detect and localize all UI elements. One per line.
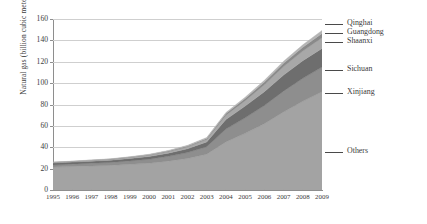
x-axis-tick-label: 2004	[216, 194, 236, 201]
y-axis-tick-mark	[50, 147, 53, 148]
callout-leader-line	[325, 152, 343, 153]
x-axis-tick-label: 2000	[139, 194, 159, 201]
callout-label-qinghai: Qinghai	[347, 19, 372, 27]
callout-label-guangdong: Guangdong	[347, 28, 384, 36]
callout-leader-line	[325, 24, 343, 25]
callout-leader-line	[325, 70, 343, 71]
y-axis-tick-label: 80	[28, 101, 48, 109]
x-axis-tick-label: 1998	[101, 194, 121, 201]
x-axis-tick-label: 2006	[254, 194, 274, 201]
x-axis-tick-label: 2008	[293, 194, 313, 201]
y-axis-tick-label: 120	[28, 58, 48, 66]
y-axis-tick-label: 0	[28, 186, 48, 194]
y-axis-tick-mark	[50, 105, 53, 106]
y-axis-tick-label: 140	[28, 36, 48, 44]
callout-leader-line	[325, 33, 343, 34]
x-axis-tick-label: 2007	[274, 194, 294, 201]
y-axis-tick-label: 160	[28, 15, 48, 23]
y-axis-title: Natural gas (billion cubic meters)	[19, 0, 28, 128]
y-axis-tick-label: 100	[28, 79, 48, 87]
y-axis-tick-label: 60	[28, 122, 48, 130]
x-axis-line	[53, 190, 323, 191]
callout-label-xinjiang: Xinjiang	[347, 88, 375, 96]
stacked-area-series-group	[53, 19, 322, 190]
y-axis-tick-mark	[50, 190, 53, 191]
callout-leader-line	[325, 93, 343, 94]
y-axis-tick-mark	[50, 83, 53, 84]
natural-gas-stacked-area-chart: Natural gas (billion cubic meters) 02040…	[0, 0, 427, 224]
x-axis-tick-label: 1996	[62, 194, 82, 201]
callout-label-others: Others	[347, 147, 368, 155]
callout-label-sichuan: Sichuan	[347, 65, 372, 73]
x-axis-tick-label: 2005	[235, 194, 255, 201]
x-axis-tick-label: 2009	[312, 194, 332, 201]
x-axis-tick-label: 2001	[158, 194, 178, 201]
callout-label-shaanxi: Shaanxi	[347, 37, 372, 45]
x-axis-tick-label: 2003	[197, 194, 217, 201]
y-axis-tick-label: 40	[28, 143, 48, 151]
y-axis-tick-mark	[50, 19, 53, 20]
x-axis-tick-label: 1999	[120, 194, 140, 201]
plot-area	[53, 19, 322, 190]
x-axis-tick-label: 2002	[178, 194, 198, 201]
y-axis-tick-mark	[50, 126, 53, 127]
y-axis-tick-label: 20	[28, 165, 48, 173]
x-axis-tick-label: 1997	[81, 194, 101, 201]
y-axis-tick-mark	[50, 40, 53, 41]
callout-leader-line	[325, 42, 343, 43]
y-axis-tick-mark	[50, 169, 53, 170]
x-axis-tick-label: 1995	[43, 194, 63, 201]
y-axis-tick-mark	[50, 62, 53, 63]
